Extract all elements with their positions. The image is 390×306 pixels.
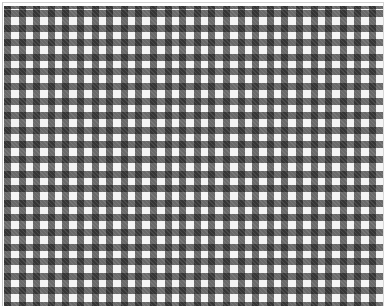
gingham-pattern <box>4 6 383 306</box>
